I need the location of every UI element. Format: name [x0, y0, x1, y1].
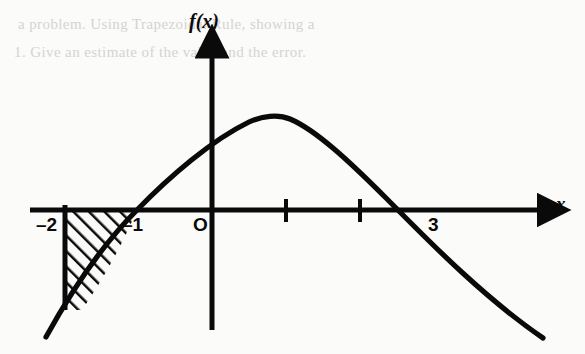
- function-graph: [0, 0, 585, 354]
- function-curve: [46, 116, 543, 338]
- y-axis-label: f(x): [189, 10, 219, 33]
- x-tick-label-neg1: –1: [122, 214, 143, 236]
- x-tick-label-neg2: –2: [36, 214, 57, 236]
- origin-label: O: [193, 214, 208, 236]
- x-axis-label: x: [556, 193, 566, 215]
- figure-page: a problem. Using Trapezoidal Rule, showi…: [0, 0, 585, 354]
- x-tick-label-three: 3: [428, 214, 439, 236]
